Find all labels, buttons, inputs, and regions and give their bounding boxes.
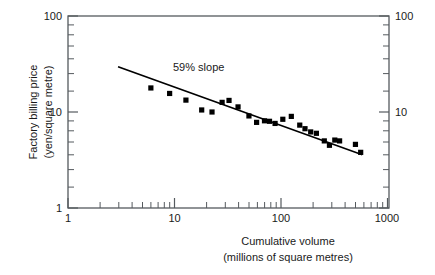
data-point bbox=[254, 120, 259, 125]
data-point bbox=[199, 107, 204, 112]
data-point bbox=[148, 85, 153, 90]
x-axis-subtitle: (millions of square metres) bbox=[223, 251, 353, 263]
plot-frame bbox=[68, 16, 389, 208]
data-point bbox=[235, 104, 240, 109]
x-tick-label-10: 10 bbox=[168, 212, 180, 224]
data-point bbox=[262, 118, 267, 123]
data-points-group bbox=[148, 85, 363, 155]
x-tick-label-100: 100 bbox=[272, 212, 290, 224]
y-axis-subtitle: (yen/square metre) bbox=[42, 66, 54, 159]
x-tick-label-1: 1 bbox=[65, 212, 71, 224]
x-axis-title: Cumulative volume bbox=[241, 235, 335, 247]
data-point bbox=[337, 138, 342, 143]
y-axis-title: Factory billing price bbox=[27, 65, 39, 160]
data-point bbox=[289, 114, 294, 119]
data-point bbox=[167, 91, 172, 96]
data-point bbox=[332, 137, 337, 142]
y-axis-left bbox=[68, 16, 78, 208]
y-axis-right bbox=[379, 16, 389, 208]
data-point bbox=[358, 150, 363, 155]
data-point bbox=[246, 113, 251, 118]
data-point bbox=[308, 129, 313, 134]
data-point bbox=[353, 142, 358, 147]
data-point bbox=[302, 126, 307, 131]
chart-figure: 100 10 1 100 10 bbox=[0, 0, 435, 275]
slope-annotation: 59% slope bbox=[173, 61, 224, 73]
x-tick-label-1000: 1000 bbox=[375, 212, 399, 224]
y-tick-label-100: 100 bbox=[44, 10, 62, 22]
data-point bbox=[226, 98, 231, 103]
x-axis bbox=[68, 198, 388, 208]
y-right-tick-label-100: 100 bbox=[395, 10, 413, 22]
data-point bbox=[267, 119, 272, 124]
data-point bbox=[209, 109, 214, 114]
data-point bbox=[183, 98, 188, 103]
data-point bbox=[280, 117, 285, 122]
data-point bbox=[314, 131, 319, 136]
data-point bbox=[322, 138, 327, 143]
data-point bbox=[272, 121, 277, 126]
data-point bbox=[297, 123, 302, 128]
data-point bbox=[327, 143, 332, 148]
y-tick-label-1: 1 bbox=[56, 202, 62, 214]
data-point bbox=[220, 100, 225, 105]
y-right-tick-label-10: 10 bbox=[395, 106, 407, 118]
